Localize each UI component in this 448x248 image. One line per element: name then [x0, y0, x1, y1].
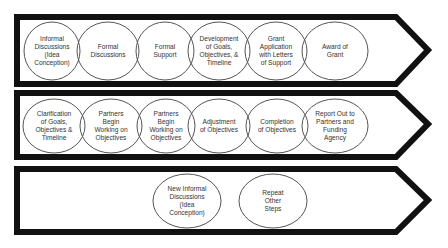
- process-diagram: [0, 0, 448, 248]
- arrow-row-1: [17, 17, 428, 84]
- arrow-row-2: [17, 93, 428, 157]
- arrow-row-3: [17, 169, 428, 232]
